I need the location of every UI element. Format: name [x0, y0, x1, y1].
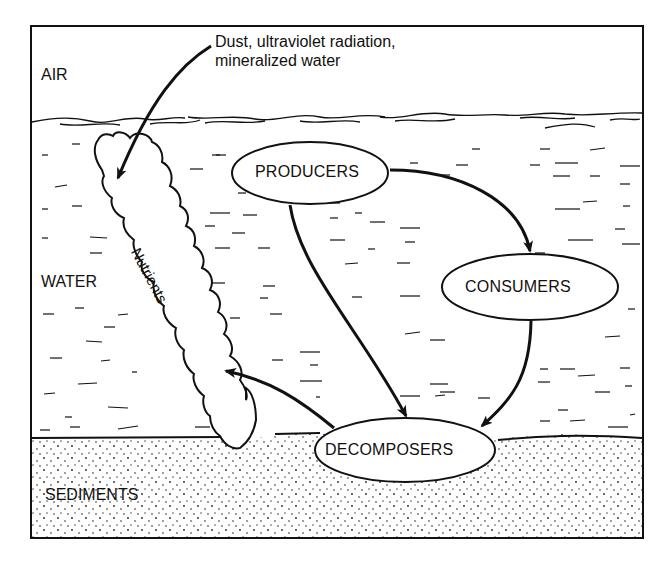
inputs-label-line1: Dust, ultraviolet radiation,: [215, 32, 396, 51]
arrow-consumers-to-decomposers: [482, 321, 531, 426]
nutrients-cloud: [95, 132, 256, 448]
arrow-producers-to-decomposers: [290, 205, 406, 416]
inputs-label-line2: mineralized water: [215, 51, 396, 70]
inputs-label: Dust, ultraviolet radiation, mineralized…: [215, 32, 396, 70]
decomposers-node: DECOMPOSERS: [325, 441, 453, 459]
zone-label-air: AIR: [41, 66, 68, 84]
consumers-node: CONSUMERS: [465, 278, 571, 296]
producers-node: PRODUCERS: [255, 163, 359, 181]
arrow-producers-to-consumers: [390, 170, 530, 251]
zone-label-sediments: SEDIMENTS: [45, 486, 138, 504]
water-surface: [32, 113, 642, 128]
zone-label-water: WATER: [41, 273, 97, 291]
